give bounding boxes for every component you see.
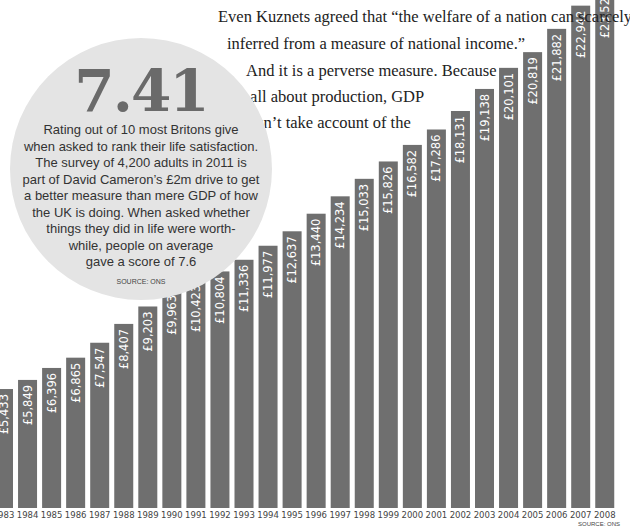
year-tick-label: 1986 (65, 510, 87, 520)
bar-value-label: £15,033 (357, 184, 371, 232)
bar-value-label: £19,138 (478, 94, 492, 142)
year-tick-label: 2008 (594, 510, 616, 520)
year-tick-label: 1989 (137, 510, 159, 520)
article-text-line-3: And it is a perverse measure. Because (246, 61, 436, 81)
callout-text-line: Rating out of 10 most Britons give (10, 122, 272, 139)
year-tick-label: 2007 (570, 510, 592, 520)
life-satisfaction-callout: 7.41 Rating out of 10 most Britons give … (10, 38, 272, 300)
year-tick-label: 1983 (0, 510, 14, 520)
year-tick-label: 1995 (281, 510, 303, 520)
bar-2007 (571, 6, 590, 508)
bar-2000 (403, 145, 422, 508)
year-tick-label: 2000 (402, 510, 424, 520)
bar-value-label: £20,819 (526, 57, 540, 105)
bar-value-label: £6,396 (45, 373, 59, 413)
bar-2002 (451, 111, 470, 508)
bar-value-label: £21,882 (550, 34, 564, 82)
callout-text-line: part of David Cameron’s £2m drive to get (10, 172, 272, 189)
callout-text-line: gave a score of 7.6 (10, 254, 272, 271)
year-tick-label: 1985 (41, 510, 63, 520)
bar-value-label: £9,963 (165, 295, 179, 335)
article-text-line-1: Even Kuznets agreed that “the welfare of… (0, 7, 618, 27)
bar-value-label: £7,547 (93, 348, 107, 388)
year-tick-label: 2003 (474, 510, 496, 520)
year-tick-label: 2001 (426, 510, 448, 520)
year-tick-label: 1997 (329, 510, 351, 520)
callout-text: Rating out of 10 most Britons give when … (10, 122, 272, 271)
bar-value-label: £16,582 (405, 150, 419, 198)
bar-2004 (499, 68, 518, 508)
year-tick-label: 1984 (17, 510, 39, 520)
year-tick-label: 1991 (185, 510, 207, 520)
bar-value-label: £18,131 (453, 116, 467, 164)
year-tick-label: 1999 (377, 510, 399, 520)
bar-value-label: £13,440 (309, 219, 323, 267)
bar-value-label: £11,336 (237, 265, 251, 313)
year-tick-label: 1992 (209, 510, 231, 520)
bar-value-label: £14,234 (333, 201, 347, 249)
bar-value-label: £5,433 (0, 394, 11, 434)
chart-source: SOURCE: ONS (578, 521, 620, 527)
bar-2001 (427, 129, 446, 508)
callout-value: 7.41 (10, 63, 272, 119)
callout-text-line: a better measure than mere GDP of how (10, 188, 272, 205)
bar-2005 (523, 52, 542, 508)
year-tick-label: 1994 (257, 510, 279, 520)
bar-2006 (547, 29, 566, 508)
bar-2008 (595, 0, 614, 508)
callout-text-line: while, people on average (10, 238, 272, 255)
bar-value-label: £15,826 (381, 166, 395, 214)
callout-source: SOURCE: ONS (10, 278, 272, 285)
article-text-line-2: inferred from a measure of national inco… (226, 34, 526, 54)
year-tick-label: 1988 (113, 510, 135, 520)
callout-text-line: The survey of 4,200 adults in 2011 is (10, 155, 272, 172)
bar-value-label: £8,407 (117, 329, 131, 369)
year-tick-label: 2002 (450, 510, 472, 520)
bar-value-label: £12,637 (285, 236, 299, 284)
year-tick-label: 1987 (89, 510, 111, 520)
bar-value-label: £10,423 (189, 285, 203, 333)
year-tick-label: 1993 (233, 510, 255, 520)
year-tick-label: 1998 (353, 510, 375, 520)
callout-text-line: when asked to rank their life satisfacti… (10, 139, 272, 156)
bar-2003 (475, 89, 494, 508)
year-tick-label: 1990 (161, 510, 183, 520)
year-tick-label: 1996 (305, 510, 327, 520)
callout-text-line: the UK is doing. When asked whether (10, 205, 272, 222)
year-tick-label: 2005 (522, 510, 544, 520)
bar-value-label: £9,203 (141, 311, 155, 351)
bar-value-label: £20,101 (502, 73, 516, 121)
bar-value-label: £17,286 (429, 134, 443, 182)
year-tick-label: 2004 (498, 510, 520, 520)
year-tick-label: 2006 (546, 510, 568, 520)
callout-text-line: things they did in life were worth- (10, 221, 272, 238)
bar-value-label: £6,865 (69, 363, 83, 403)
bar-value-label: £5,849 (21, 385, 35, 425)
